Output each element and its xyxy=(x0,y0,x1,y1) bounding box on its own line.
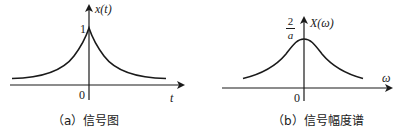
panel-b-caption: （b）信号幅度谱 xyxy=(272,111,364,128)
panel-b-curve xyxy=(243,39,363,79)
panel-b-x-axis-label: ω xyxy=(382,72,390,84)
panel-a-y-axis-label: x(t) xyxy=(95,3,112,15)
panel-a-caption: （a）信号图 xyxy=(52,111,119,128)
panel-b-origin-label: 0 xyxy=(294,92,300,104)
panel-a-peak-label: 1 xyxy=(80,23,86,35)
panel-b-peak-denominator: a xyxy=(288,30,294,41)
panel-b-peak-numerator: 2 xyxy=(288,16,294,27)
panel-b-spectrum xyxy=(222,18,391,101)
panel-b-y-axis-label: X(ω) xyxy=(310,17,334,29)
panel-a-x-axis-label: t xyxy=(170,92,173,104)
panel-a-signal xyxy=(10,6,183,100)
panel-b-peak-label: 2 a xyxy=(286,16,295,41)
panel-a-origin-label: 0 xyxy=(79,89,85,101)
